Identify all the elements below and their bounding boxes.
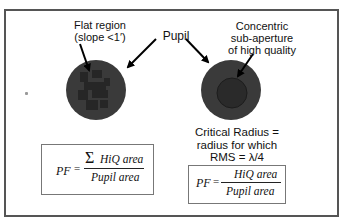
left-pupil-circle	[66, 60, 126, 120]
formula-left-equals: =	[74, 162, 80, 174]
flat-region-line2: (slope <1′)	[55, 31, 145, 43]
formula-left-lhs: PF	[56, 164, 71, 179]
critical-line1: Critical Radius =	[187, 126, 287, 139]
flat-region-line1: Flat region	[55, 19, 145, 31]
formula-right-lhs: PF	[196, 176, 211, 191]
critical-line2: radius for which	[187, 139, 287, 152]
formula-left-numerator: HiQ area	[100, 153, 143, 165]
high-quality-subaperture	[217, 78, 247, 108]
formula-right-numerator: HiQ area	[234, 168, 277, 180]
formula-left-fraction-bar	[84, 168, 144, 169]
flat-region-label: Flat region (slope <1′)	[55, 19, 145, 43]
critical-radius-label: Critical Radius = radius for which RMS =…	[187, 126, 287, 164]
concentric-label: Concentric sub-aperture of high quality	[222, 20, 302, 56]
critical-line3: RMS = λ/4	[187, 151, 287, 164]
pupil-arrow-right	[186, 39, 208, 62]
formula-left-box: PF = Σ HiQ area Pupil area	[41, 144, 154, 195]
formula-right-box: PF = HiQ area Pupil area	[188, 165, 286, 204]
formula-left-denominator: Pupil area	[91, 171, 139, 183]
stray-mark	[25, 92, 28, 95]
formula-right-fraction-bar	[221, 182, 281, 183]
pupil-label: Pupil	[156, 30, 196, 42]
formula-right-equals: =	[213, 175, 219, 187]
concentric-line3: of high quality	[222, 44, 302, 56]
concentric-line2: sub-aperture	[222, 32, 302, 44]
sum-symbol: Σ	[85, 149, 94, 167]
pupil-arrow-left	[128, 39, 156, 67]
right-pupil-circle	[201, 60, 261, 120]
concentric-line1: Concentric	[222, 20, 302, 32]
formula-right-denominator: Pupil area	[226, 185, 274, 197]
